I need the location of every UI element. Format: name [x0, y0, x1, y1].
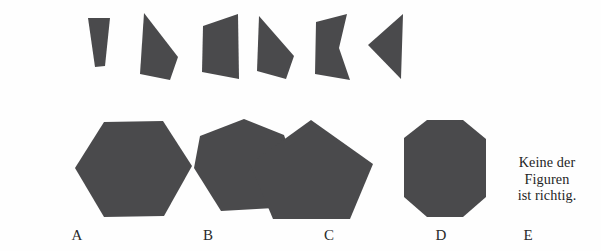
- fragment-2: [140, 13, 178, 80]
- option-shape-row: [75, 119, 486, 219]
- option-label-e[interactable]: E: [508, 228, 548, 243]
- option-e-description[interactable]: Keine der Figuren ist richtig.: [497, 154, 597, 204]
- option-label-b[interactable]: B: [188, 228, 228, 243]
- option-e-line-2: Figuren: [497, 171, 597, 188]
- option-label-a[interactable]: A: [57, 228, 97, 243]
- figure-canvas: [0, 0, 601, 251]
- fragment-4: [257, 16, 294, 79]
- fragment-row: [88, 13, 403, 80]
- option-shape-d-octagon[interactable]: [404, 120, 486, 217]
- option-e-line-1: Keine der: [497, 154, 597, 171]
- option-shape-a-hexagon[interactable]: [75, 121, 192, 217]
- fragment-6: [368, 14, 403, 79]
- fragment-5: [315, 14, 350, 80]
- fragment-3: [202, 14, 239, 79]
- option-label-c[interactable]: C: [309, 228, 349, 243]
- option-label-d[interactable]: D: [421, 228, 461, 243]
- option-e-line-3: ist richtig.: [497, 187, 597, 204]
- fragment-1: [88, 18, 110, 67]
- puzzle-page: Keine der Figuren ist richtig. A B C D E: [0, 0, 601, 251]
